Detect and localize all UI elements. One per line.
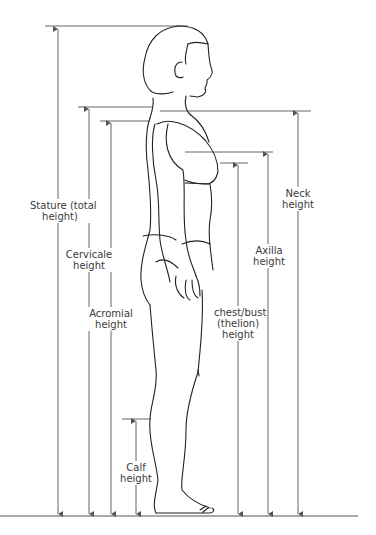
cervicale-label-line2: height — [64, 260, 114, 271]
neck-label-line2: height — [282, 199, 314, 210]
acromial-label-line1: Acromial — [88, 308, 134, 319]
axilla-label: Axilla height — [253, 244, 285, 268]
chest-bust-label: chest/bust (thelion) height — [214, 306, 262, 341]
stature-label: Stature (total height) — [30, 199, 90, 223]
axilla-label-line1: Axilla — [253, 245, 285, 256]
acromial-label-line2: height — [88, 319, 134, 330]
female-figure — [141, 26, 218, 513]
stature-label-line2: height) — [30, 211, 90, 222]
calf-label: Calf height — [120, 461, 152, 485]
acromial-label: Acromial height — [88, 307, 134, 331]
axilla-label-line2: height — [253, 256, 285, 267]
calf-label-line1: Calf — [120, 462, 152, 473]
neck-label-line1: Neck — [282, 188, 314, 199]
chest-label-line2: (thelion) — [214, 318, 262, 329]
chest-label-line1: chest/bust — [214, 307, 262, 318]
cervicale-label: Cervicale height — [64, 248, 114, 272]
measurement-diagram — [0, 0, 376, 535]
stature-label-line1: Stature (total — [30, 200, 90, 211]
chest-label-line3: height — [214, 329, 262, 340]
calf-label-line2: height — [120, 473, 152, 484]
cervicale-label-line1: Cervicale — [64, 249, 114, 260]
neck-label: Neck height — [282, 187, 314, 211]
